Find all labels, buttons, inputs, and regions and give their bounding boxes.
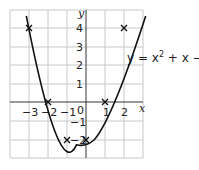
equation-label: y = x2 + x − 2	[127, 50, 199, 65]
x-axis-label: x	[139, 102, 146, 115]
y-axis-label: y	[77, 7, 85, 20]
svg-text:2: 2	[121, 106, 128, 119]
svg-text:1: 1	[103, 106, 110, 119]
svg-text:4: 4	[76, 22, 83, 35]
svg-text:2: 2	[76, 59, 83, 72]
svg-text:1: 1	[76, 78, 83, 91]
parabola-chart: y x −3 −2 −1 0 1 2 4 3 2 1 −1 −2 y = x2 …	[0, 0, 199, 170]
svg-text:−3: −3	[22, 106, 38, 119]
svg-text:3: 3	[76, 41, 83, 54]
svg-text:−1: −1	[70, 116, 86, 129]
